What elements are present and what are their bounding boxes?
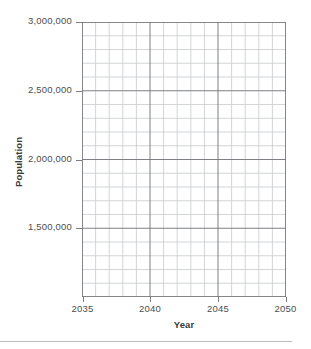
y-axis-tick-mark (76, 91, 82, 92)
x-axis-tick-mark (150, 297, 151, 302)
x-axis-tick-label: 2040 (139, 303, 161, 314)
x-axis-tick-label: 2050 (275, 303, 297, 314)
x-axis-title: Year (82, 319, 286, 330)
y-axis-title-label: Population (13, 137, 24, 187)
y-axis-tick-label: 2,000,000 (28, 153, 72, 164)
x-axis-tick-mark (286, 297, 287, 302)
y-axis-tick-mark (76, 228, 82, 229)
x-axis-tick-label: 2035 (72, 303, 94, 314)
x-axis-tick-mark (218, 297, 219, 302)
y-axis-title: Population (11, 122, 25, 202)
footer-divider (0, 341, 292, 342)
y-axis-tick-label: 3,000,000 (28, 15, 72, 26)
y-axis-tick-mark (76, 160, 82, 161)
x-axis-title-label: Year (174, 319, 194, 330)
plot-area (82, 22, 286, 297)
y-axis-tick-mark (76, 22, 82, 23)
y-axis-tick-label: 1,500,000 (28, 221, 72, 232)
y-axis-tick-label: 2,500,000 (28, 84, 72, 95)
x-axis-tick-mark (83, 297, 84, 302)
x-axis-tick-label: 2045 (207, 303, 229, 314)
population-vs-year-chart: 3,000,000 2,500,000 2,000,000 1,500,000 … (0, 0, 311, 349)
x-axis: 2035 2040 2045 2050 (82, 297, 286, 321)
grid-lines (82, 22, 286, 297)
